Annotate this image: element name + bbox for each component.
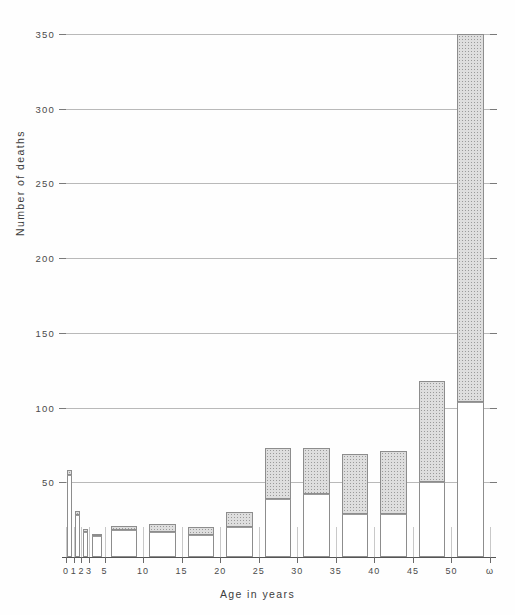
bar-segment-lower	[92, 536, 102, 557]
y-axis-tick	[490, 183, 497, 184]
bar-segment-lower	[265, 499, 292, 557]
gridline	[66, 183, 490, 184]
y-axis-tick-label: 150	[36, 327, 55, 338]
y-axis-tick	[59, 109, 66, 110]
category-separator	[81, 527, 82, 557]
x-axis-tick-label: 45	[407, 566, 419, 576]
bar-segment-lower	[457, 402, 484, 557]
bar	[457, 34, 484, 557]
x-axis-tick-label: 30	[291, 566, 303, 576]
bar-segment-lower	[226, 527, 253, 557]
category-separator	[374, 527, 375, 557]
x-axis-tick-label: 1	[71, 566, 77, 576]
x-axis-tick	[259, 557, 260, 563]
bar-segment-lower	[380, 514, 407, 557]
category-separator	[89, 527, 90, 557]
bar-segment-upper	[92, 534, 102, 536]
bar	[265, 448, 292, 557]
category-separator	[297, 527, 298, 557]
x-axis-tick-label: 10	[137, 566, 149, 576]
bar-segment-lower	[111, 530, 138, 557]
bar	[111, 526, 138, 557]
bar	[149, 524, 176, 557]
gridline	[66, 258, 490, 259]
y-axis-tick-label: 350	[36, 29, 55, 40]
category-separator	[413, 527, 414, 557]
bar	[67, 470, 72, 557]
bar-segment-lower	[303, 494, 330, 557]
category-separator	[259, 527, 260, 557]
bar-segment-lower	[67, 475, 72, 557]
x-axis-tick	[182, 557, 183, 563]
y-axis-tick	[59, 183, 66, 184]
x-axis-tick	[143, 557, 144, 563]
bar-segment-upper	[342, 454, 369, 514]
bar-segment-upper	[188, 527, 215, 534]
y-axis-tick	[59, 258, 66, 259]
x-axis-tick	[297, 557, 298, 563]
y-axis-tick	[59, 482, 66, 483]
x-axis-tick-label: 25	[253, 566, 265, 576]
y-axis-tick	[490, 258, 497, 259]
category-separator	[336, 527, 337, 557]
bar	[92, 535, 102, 557]
bar-segment-upper	[419, 381, 446, 483]
bar-segment-upper	[67, 470, 72, 474]
bar-segment-upper	[149, 524, 176, 531]
x-axis-tick	[66, 557, 67, 563]
bar	[303, 448, 330, 557]
x-axis-tick-label: 3	[86, 566, 92, 576]
y-axis-tick-label: 200	[36, 253, 55, 264]
x-axis-tick-label: 15	[176, 566, 188, 576]
bar-segment-lower	[83, 532, 88, 557]
x-axis-tick	[220, 557, 221, 563]
bar	[226, 512, 253, 557]
x-axis-tick	[413, 557, 414, 563]
x-axis-tick	[89, 557, 90, 563]
bar-segment-lower	[188, 535, 215, 557]
category-separator	[182, 527, 183, 557]
bar	[188, 527, 215, 557]
y-axis-tick	[59, 34, 66, 35]
bar-segment-lower	[419, 482, 446, 557]
y-axis-tick	[490, 408, 497, 409]
x-axis-tick	[74, 557, 75, 563]
y-axis-tick	[59, 408, 66, 409]
category-separator	[66, 527, 67, 557]
bar	[380, 451, 407, 557]
bar-segment-upper	[111, 526, 138, 530]
category-separator	[451, 527, 452, 557]
y-axis-tick-label: 50	[42, 477, 55, 488]
gridline	[66, 34, 490, 35]
bar-segment-upper	[457, 34, 484, 402]
x-axis-tick-label: 50	[445, 566, 457, 576]
chart-container: Number of deaths 50100150200250300350 01…	[0, 0, 515, 615]
bar-segment-upper	[303, 448, 330, 494]
y-axis-tick-label: 300	[36, 103, 55, 114]
x-axis-tick-label: ω	[486, 566, 494, 576]
x-axis-tick-label: 35	[330, 566, 342, 576]
category-separator	[143, 527, 144, 557]
bar-segment-lower	[75, 515, 80, 557]
bar-segment-upper	[226, 512, 253, 527]
x-axis-title: Age in years	[0, 588, 515, 600]
y-axis-tick	[490, 482, 497, 483]
bar	[75, 511, 80, 557]
plot-area	[66, 34, 490, 557]
y-axis-tick-label: 250	[36, 178, 55, 189]
x-axis-tick	[374, 557, 375, 563]
bar-segment-upper	[380, 451, 407, 514]
bar-segment-lower	[342, 514, 369, 557]
bar	[83, 529, 88, 557]
y-axis-tick	[490, 109, 497, 110]
bar-segment-upper	[75, 511, 80, 515]
bar	[342, 454, 369, 557]
bar-segment-lower	[149, 532, 176, 557]
y-axis-tick	[490, 333, 497, 334]
bar-segment-upper	[83, 529, 88, 532]
y-axis-tick	[490, 34, 497, 35]
x-axis-tick	[81, 557, 82, 563]
y-axis-tick	[59, 333, 66, 334]
gridline	[66, 109, 490, 110]
x-axis-tick-label: 5	[102, 566, 108, 576]
